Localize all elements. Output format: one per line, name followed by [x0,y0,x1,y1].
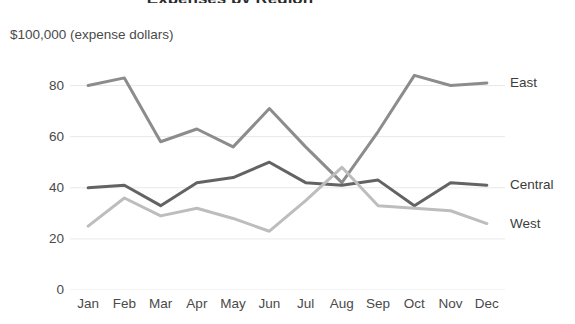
y-axis-unit-label: $100,000 (expense dollars) [10,27,174,42]
x-tick-label-aug: Aug [330,296,354,312]
x-tick-label-dec: Dec [475,296,499,312]
series-label-east: East [510,76,537,90]
x-tick-label-oct: Oct [404,296,425,312]
chart-title: Expenses by Region [0,0,460,3]
series-line-central [88,162,487,205]
series-line-east [88,75,487,182]
series-label-central: Central [510,178,554,192]
series-label-west: West [510,217,541,231]
y-tick-label: 80 [30,79,64,92]
x-tick-label-feb: Feb [113,296,136,312]
y-tick-label: 20 [30,232,64,245]
plot-area [70,60,505,290]
y-axis-tick-labels: 020406080 [24,60,64,290]
x-tick-label-jun: Jun [258,296,280,312]
y-tick-label: 0 [30,283,64,296]
x-tick-label-mar: Mar [149,296,172,312]
x-tick-label-may: May [220,296,246,312]
x-tick-label-jan: Jan [77,296,99,312]
line-chart-svg [70,60,505,290]
x-tick-label-apr: Apr [186,296,207,312]
series-lines [88,75,487,231]
x-tick-label-nov: Nov [439,296,463,312]
x-axis-tick-labels: JanFebMarAprMayJunJulAugSepOctNovDec [70,296,505,318]
gridlines [70,86,505,290]
y-tick-label: 40 [30,181,64,194]
y-tick-label: 60 [30,130,64,143]
x-tick-label-jul: Jul [297,296,314,312]
x-tick-label-sep: Sep [366,296,390,312]
expenses-by-region-chart: Expenses by Region $100,000 (expense dol… [0,0,575,324]
